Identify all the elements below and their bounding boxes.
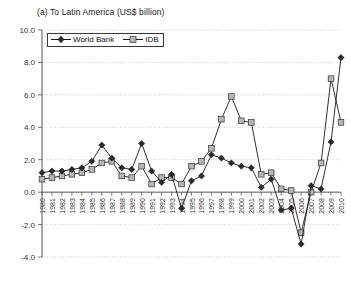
- data-point-marker: [288, 188, 294, 194]
- data-point-marker: [249, 120, 255, 126]
- x-tick-label: 2002: [258, 198, 265, 214]
- data-point-marker: [49, 175, 55, 181]
- x-tick-label: 2001: [248, 198, 255, 214]
- x-tick-label: 2008: [318, 198, 325, 214]
- y-tick-label: 2.0: [24, 156, 36, 165]
- x-tick-label: 1990: [139, 198, 146, 214]
- data-point-marker: [188, 178, 194, 184]
- data-point-marker: [218, 155, 224, 161]
- data-point-marker: [338, 54, 344, 60]
- x-tick-label: 1981: [49, 198, 56, 214]
- data-point-marker: [239, 118, 245, 124]
- legend-diamond-icon: [51, 35, 71, 44]
- x-tick-label: 1988: [119, 198, 126, 214]
- x-tick-label: 1983: [69, 198, 76, 214]
- data-point-marker: [328, 139, 334, 145]
- x-tick-label: 2000: [238, 198, 245, 214]
- data-point-marker: [49, 168, 55, 174]
- data-point-marker: [39, 176, 45, 182]
- data-point-marker: [199, 159, 205, 165]
- grid-lines: [42, 30, 341, 257]
- x-tick-label: 1995: [189, 198, 196, 214]
- x-tick-label: 1982: [59, 198, 66, 214]
- x-axis-tickmarks: [42, 192, 341, 196]
- data-point-marker: [278, 186, 284, 192]
- x-tick-label: 1989: [129, 198, 136, 214]
- data-point-marker: [238, 163, 244, 169]
- data-point-marker: [298, 241, 304, 247]
- y-tick-label: -2.0: [21, 221, 35, 230]
- x-tick-label: 1999: [228, 198, 235, 214]
- data-point-marker: [229, 94, 235, 100]
- chart-legend: World Bank IDB: [47, 33, 164, 47]
- x-tick-label: 2009: [328, 198, 335, 214]
- data-point-marker: [258, 172, 264, 178]
- x-tick-label: 1984: [79, 198, 86, 214]
- data-point-marker: [139, 163, 145, 169]
- data-point-marker: [318, 186, 324, 192]
- x-tick-label: 1986: [99, 198, 106, 214]
- x-tick-label: 1992: [159, 198, 166, 214]
- y-tick-label: 10.0: [19, 26, 35, 35]
- data-point-marker: [39, 170, 45, 176]
- data-point-marker: [338, 120, 344, 126]
- y-tick-label: -4.0: [21, 253, 35, 262]
- chart-container: (a) To Latin America (US$ billion) 10.08…: [0, 0, 351, 286]
- data-point-marker: [89, 167, 95, 173]
- y-tick-label: 8.0: [24, 58, 36, 67]
- x-tick-label: 2010: [338, 198, 345, 214]
- data-point-marker: [248, 165, 254, 171]
- data-point-marker: [209, 146, 215, 152]
- x-tick-label: 1991: [149, 198, 156, 214]
- data-point-marker: [318, 160, 324, 166]
- data-point-marker: [119, 173, 125, 179]
- data-point-marker: [308, 183, 314, 189]
- series-line-world-bank: [42, 58, 341, 244]
- x-tick-label: 1987: [109, 198, 116, 214]
- legend-label-world-bank: World Bank: [73, 36, 114, 44]
- data-point-marker: [179, 181, 185, 187]
- data-point-marker: [139, 140, 145, 146]
- legend-label-idb: IDB: [145, 36, 158, 44]
- x-axis-tick-labels: 1980198119821983198419851986198719881989…: [39, 198, 345, 214]
- x-tick-label: 1998: [218, 198, 225, 214]
- data-series: [39, 54, 344, 247]
- x-tick-label: 1985: [89, 198, 96, 214]
- data-point-marker: [129, 175, 135, 181]
- x-tick-label: 2006: [298, 198, 305, 214]
- legend-item-world-bank: World Bank: [51, 35, 114, 44]
- data-point-marker: [189, 163, 195, 169]
- data-point-marker: [149, 181, 155, 187]
- data-point-marker: [89, 158, 95, 164]
- y-tick-label: 4.0: [24, 123, 36, 132]
- x-tick-label: 1996: [198, 198, 205, 214]
- data-point-marker: [268, 170, 274, 176]
- data-point-marker: [228, 160, 234, 166]
- data-point-marker: [198, 173, 204, 179]
- y-tick-label: 0.0: [24, 188, 36, 197]
- legend-item-idb: IDB: [123, 35, 158, 44]
- data-point-marker: [328, 76, 334, 82]
- data-point-marker: [219, 116, 225, 122]
- y-tick-label: 6.0: [24, 91, 36, 100]
- data-point-marker: [208, 152, 214, 158]
- x-tick-label: 2003: [268, 198, 275, 214]
- x-tick-label: 1993: [169, 198, 176, 214]
- data-point-marker: [129, 166, 135, 172]
- data-point-marker: [99, 160, 105, 166]
- data-point-marker: [308, 189, 314, 195]
- legend-square-icon: [123, 35, 143, 44]
- y-axis-tick-labels: 10.08.06.04.02.00.0-2.0-4.0: [19, 26, 42, 262]
- x-tick-label: 1997: [208, 198, 215, 214]
